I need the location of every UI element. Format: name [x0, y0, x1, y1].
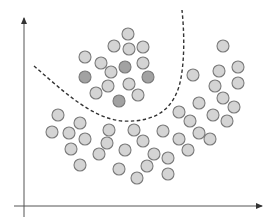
diagram-canvas — [0, 0, 275, 224]
data-point-light — [162, 152, 174, 164]
data-point-light — [113, 163, 125, 175]
data-point-light — [217, 40, 229, 52]
data-point-light — [131, 172, 143, 184]
data-point-light — [173, 133, 185, 145]
data-point-light — [52, 109, 64, 121]
data-point-light — [209, 80, 221, 92]
data-point-light — [193, 127, 205, 139]
data-point-light — [187, 69, 199, 81]
data-point-dark — [113, 95, 125, 107]
data-point-light — [46, 126, 58, 138]
data-point-light — [119, 144, 131, 156]
data-point-light — [162, 168, 174, 180]
data-point-dark — [142, 71, 154, 83]
data-point-light — [207, 109, 219, 121]
data-point-light — [137, 135, 149, 147]
data-point-light — [63, 127, 75, 139]
data-point-light — [79, 51, 91, 63]
data-point-light — [65, 143, 77, 155]
data-point-light — [122, 28, 134, 40]
data-point-light — [148, 148, 160, 160]
data-point-light — [137, 57, 149, 69]
data-point-light — [193, 97, 205, 109]
scatter-plot — [0, 0, 275, 224]
data-point-light — [123, 43, 135, 55]
data-point-light — [74, 117, 86, 129]
data-point-light — [103, 124, 115, 136]
data-point-light — [184, 115, 196, 127]
data-point-light — [232, 61, 244, 73]
data-point-light — [221, 115, 233, 127]
data-point-light — [93, 148, 105, 160]
data-point-light — [132, 89, 144, 101]
data-point-light — [123, 78, 135, 90]
data-point-dark — [119, 61, 131, 73]
data-point-light — [101, 137, 113, 149]
decision-boundary-dashed-curve — [34, 10, 184, 121]
data-point-light — [217, 92, 229, 104]
data-point-light — [141, 160, 153, 172]
data-point-light — [232, 77, 244, 89]
data-point-light — [204, 133, 216, 145]
data-point-light — [137, 41, 149, 53]
data-point-light — [108, 40, 120, 52]
data-point-light — [128, 124, 140, 136]
data-point-light — [105, 66, 117, 78]
data-point-light — [95, 57, 107, 69]
data-point-light — [79, 133, 91, 145]
data-point-light — [74, 159, 86, 171]
data-point-light — [228, 101, 240, 113]
data-point-light — [182, 144, 194, 156]
data-point-light — [213, 65, 225, 77]
data-point-dark — [79, 71, 91, 83]
data-point-light — [173, 106, 185, 118]
inside-boundary-cluster — [79, 28, 154, 107]
data-point-light — [157, 125, 169, 137]
data-point-light — [90, 87, 102, 99]
data-point-light — [102, 80, 114, 92]
